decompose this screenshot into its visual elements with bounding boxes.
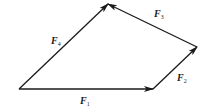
label-f2: F2 [177,73,187,84]
vector-f4-arrow [19,4,108,89]
label-f4-subscript: 4 [58,41,61,47]
label-f3-symbol: F [154,8,161,19]
label-f1-subscript: 1 [87,101,90,107]
label-f2-symbol: F [177,72,184,83]
vector-f3-arrow [108,4,197,47]
force-polygon-diagram [0,0,208,111]
vector-f2-arrow [153,47,197,89]
label-f3-subscript: 3 [161,14,164,20]
label-f2-subscript: 2 [184,78,187,84]
label-f4-symbol: F [51,35,58,46]
label-f4: F4 [51,36,61,47]
label-f1: F1 [80,96,90,107]
label-f1-symbol: F [80,95,87,106]
label-f3: F3 [154,9,164,20]
